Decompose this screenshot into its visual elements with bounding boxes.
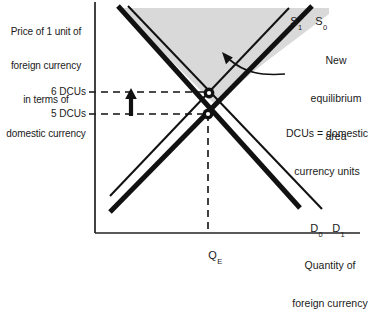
y-axis-caption-line-1: Price of 1 unit of xyxy=(2,26,90,37)
y-axis-caption: Price of 1 unit of foreign currency in t… xyxy=(2,3,90,162)
new-equilibrium-annotation-line-1: New xyxy=(288,54,384,67)
supply-curve-0-label-base: S xyxy=(315,15,322,27)
equilibrium-point-new-inner xyxy=(207,91,211,95)
dcu-legend-line-2: currency units xyxy=(268,165,386,178)
equilibrium-point-initial-inner xyxy=(206,112,210,116)
x-tick-label-qe-sub: E xyxy=(217,257,222,266)
dcu-legend: DCUs = domestic currency units xyxy=(268,101,386,203)
demand-curve-1-label-base: D xyxy=(332,222,340,234)
y-axis-caption-line-4: domestic currency xyxy=(2,128,90,139)
y-tick-label-5-dcus: 5 DCUs xyxy=(30,108,86,119)
y-axis-caption-line-2: foreign currency xyxy=(2,60,90,71)
x-tick-label-qe-base: Q xyxy=(208,249,217,261)
supply-curve-1-label-base: S xyxy=(290,15,297,27)
demand-curve-0-label-base: D xyxy=(310,222,318,234)
x-tick-label-qe: QE xyxy=(196,236,222,277)
y-tick-label-6-dcus: 6 DCUs xyxy=(30,86,86,97)
x-axis-label: Quantity of foreign currency xyxy=(272,233,388,313)
x-axis-label-line-1: Quantity of xyxy=(272,259,388,272)
x-axis-label-line-2: foreign currency xyxy=(272,297,388,310)
dcu-legend-line-1: DCUs = domestic xyxy=(268,127,386,140)
